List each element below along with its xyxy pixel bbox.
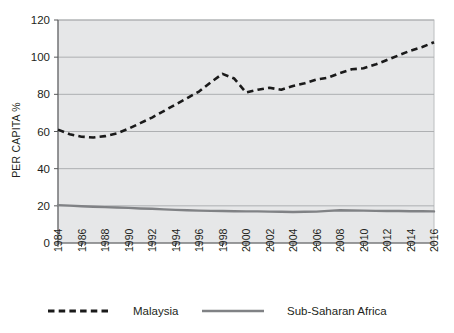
y-tick-label-80: 80 — [37, 88, 50, 100]
legend-label-malaysia: Malaysia — [133, 305, 179, 317]
x-tick-label-2006: 2006 — [311, 228, 323, 252]
x-tick-label-1996: 1996 — [193, 228, 205, 252]
x-tick-label-1998: 1998 — [217, 228, 229, 252]
x-tick-label-1990: 1990 — [123, 228, 135, 252]
x-tick-label-1992: 1992 — [146, 228, 158, 252]
x-tick-label-2002: 2002 — [264, 228, 276, 252]
x-tick-label-2008: 2008 — [334, 228, 346, 252]
x-tick-label-1984: 1984 — [52, 228, 64, 252]
y-axis-title: PER CAPITA % — [10, 102, 22, 178]
x-tick-label-2016: 2016 — [428, 228, 440, 252]
y-tick-label-60: 60 — [37, 126, 50, 138]
x-axis-tick-labels: 1984198619881990199219941996199820002002… — [52, 228, 440, 252]
x-tick-label-2012: 2012 — [381, 228, 393, 252]
y-tick-label-100: 100 — [31, 51, 50, 63]
chart-legend: Malaysia Sub-Saharan Africa — [48, 305, 387, 317]
y-tick-label-120: 120 — [31, 14, 50, 26]
y-tick-label-40: 40 — [37, 163, 50, 175]
x-tick-label-2000: 2000 — [240, 228, 252, 252]
x-tick-label-2004: 2004 — [287, 228, 299, 252]
x-tick-label-1994: 1994 — [170, 228, 182, 252]
x-tick-label-1988: 1988 — [99, 228, 111, 252]
x-tick-label-2014: 2014 — [405, 228, 417, 252]
x-tick-label-1986: 1986 — [76, 228, 88, 252]
chart-figure: 020406080100120 198419861988199019921994… — [0, 0, 454, 333]
y-tick-label-0: 0 — [44, 237, 50, 249]
line-chart-svg: 020406080100120 198419861988199019921994… — [0, 0, 454, 333]
x-tick-label-2010: 2010 — [358, 228, 370, 252]
y-tick-label-20: 20 — [37, 200, 50, 212]
y-axis-tick-labels: 020406080100120 — [31, 14, 58, 249]
legend-label-sub-saharan-africa: Sub-Saharan Africa — [287, 305, 387, 317]
